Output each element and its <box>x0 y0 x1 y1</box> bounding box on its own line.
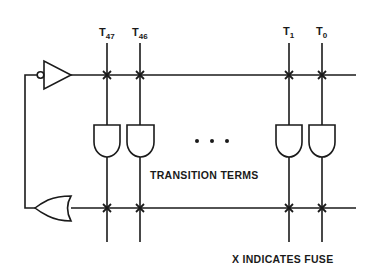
fuse-legend: X INDICATES FUSE <box>232 253 333 265</box>
and-gate-t1-icon <box>276 125 302 157</box>
and-gate-t46-icon <box>127 125 154 157</box>
column-label-t46: T46 <box>132 26 148 41</box>
inverter-bubble <box>37 72 44 79</box>
transition-terms-label: TRANSITION TERMS <box>150 169 259 181</box>
feedback-wire <box>25 75 37 208</box>
or-gate-icon <box>35 196 71 221</box>
column-label-t0: T0 <box>316 25 328 40</box>
column-label-t47: T47 <box>99 26 115 41</box>
inverter-buffer-icon <box>44 61 71 89</box>
and-gate-t0-icon <box>309 125 335 157</box>
ellipsis-dots <box>195 139 229 143</box>
fuse-array-diagram: T47 T46 T1 T0 TRANSITION TERMS X INDICAT… <box>0 0 374 279</box>
and-gate-t47-icon <box>94 125 120 157</box>
column-label-t1: T1 <box>283 25 295 40</box>
